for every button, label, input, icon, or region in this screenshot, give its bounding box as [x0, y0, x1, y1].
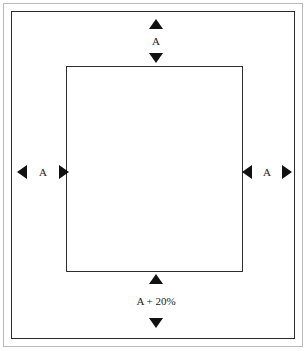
triangle-down-icon — [149, 318, 163, 328]
bottom-margin-dimension: A + 20% — [110, 274, 202, 328]
left-margin-label: A — [39, 167, 47, 178]
right-margin-dimension: A — [242, 158, 292, 186]
triangle-down-icon — [149, 53, 163, 63]
triangle-left-icon — [17, 165, 27, 179]
triangle-right-icon — [59, 165, 69, 179]
bottom-margin-label: A + 20% — [136, 296, 175, 307]
top-margin-label: A — [152, 36, 160, 47]
left-margin-dimension: A — [17, 158, 69, 186]
triangle-right-icon — [282, 165, 292, 179]
triangle-up-icon — [149, 274, 163, 284]
margin-diagram: A A A A + 20% — [0, 0, 307, 351]
content-area-rectangle — [66, 66, 243, 272]
triangle-up-icon — [149, 19, 163, 29]
triangle-left-icon — [242, 165, 252, 179]
top-margin-dimension: A — [128, 19, 184, 63]
right-margin-label: A — [263, 167, 271, 178]
